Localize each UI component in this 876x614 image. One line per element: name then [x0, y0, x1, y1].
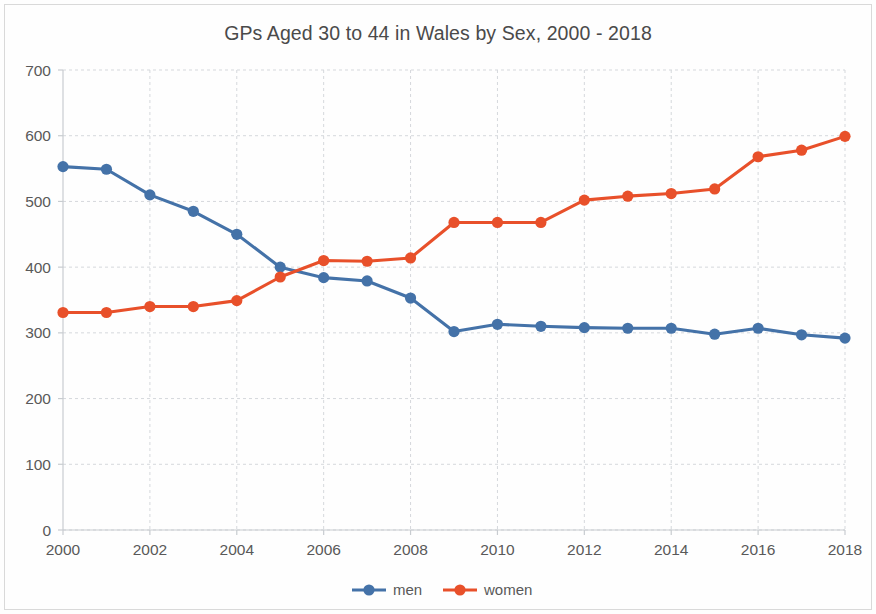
data-point-women: [535, 217, 546, 228]
legend-swatch-marker-men: [363, 584, 374, 595]
data-point-men: [101, 164, 112, 175]
data-point-men: [362, 275, 373, 286]
x-axis-tick-label: 2016: [741, 541, 775, 558]
x-axis-tick-label: 2006: [306, 541, 340, 558]
data-point-women: [101, 307, 112, 318]
chart-legend[interactable]: menwomen: [352, 581, 532, 598]
data-point-men: [839, 333, 850, 344]
y-axis-tick-label: 100: [25, 456, 51, 473]
y-axis-tick-label: 700: [25, 62, 51, 79]
data-point-women: [579, 195, 590, 206]
data-point-women: [839, 131, 850, 142]
data-point-men: [753, 323, 764, 334]
data-point-men: [796, 329, 807, 340]
x-axis-tick-label: 2010: [480, 541, 515, 558]
data-point-men: [535, 321, 546, 332]
y-axis-tick-label: 300: [25, 324, 51, 341]
data-point-women: [188, 301, 199, 312]
x-axis-tick-label: 2004: [220, 541, 255, 558]
data-point-women: [57, 307, 68, 318]
data-point-women: [231, 295, 242, 306]
y-axis-tick-label: 400: [25, 259, 51, 276]
data-point-men: [622, 323, 633, 334]
y-axis-tick-label: 200: [25, 390, 51, 407]
x-axis-tick-label: 2018: [828, 541, 862, 558]
y-axis-tick-label: 500: [25, 193, 51, 210]
x-axis-tick-labels: 2000200220042006200820102012201420162018: [46, 541, 862, 558]
legend-label-men[interactable]: men: [393, 581, 422, 598]
data-point-men: [405, 292, 416, 303]
x-axis-tick-label: 2008: [393, 541, 427, 558]
y-axis-tick-labels: 0100200300400500600700: [25, 62, 51, 539]
data-point-women: [405, 252, 416, 263]
data-point-men: [709, 329, 720, 340]
y-axis-tick-label: 600: [25, 127, 51, 144]
data-point-men: [231, 229, 242, 240]
data-point-men: [492, 319, 503, 330]
y-axis-tick-label: 0: [42, 522, 51, 539]
data-point-women: [709, 183, 720, 194]
data-point-men: [144, 189, 155, 200]
data-point-men: [188, 206, 199, 217]
series-line-men: [63, 167, 845, 339]
legend-swatch-marker-women: [454, 584, 465, 595]
data-point-men: [579, 322, 590, 333]
data-point-women: [362, 256, 373, 267]
line-chart-plot: 0100200300400500600700 20002002200420062…: [0, 0, 876, 614]
chart-figure: GPs Aged 30 to 44 in Wales by Sex, 2000 …: [0, 0, 876, 614]
data-series: [57, 131, 850, 344]
data-point-women: [492, 217, 503, 228]
data-point-women: [318, 255, 329, 266]
data-point-women: [666, 188, 677, 199]
x-axis-tick-label: 2000: [46, 541, 81, 558]
x-axis-tick-label: 2012: [567, 541, 601, 558]
legend-label-women[interactable]: women: [483, 581, 532, 598]
data-point-men: [318, 272, 329, 283]
data-point-women: [753, 151, 764, 162]
data-point-men: [448, 326, 459, 337]
data-point-women: [796, 145, 807, 156]
data-point-men: [57, 161, 68, 172]
data-point-women: [275, 271, 286, 282]
data-point-women: [144, 301, 155, 312]
axes: [58, 70, 845, 535]
data-point-women: [448, 217, 459, 228]
x-axis-tick-label: 2014: [654, 541, 689, 558]
data-point-men: [275, 262, 286, 273]
gridlines: [63, 70, 845, 530]
x-axis-tick-label: 2002: [133, 541, 167, 558]
data-point-women: [622, 191, 633, 202]
data-point-men: [666, 323, 677, 334]
